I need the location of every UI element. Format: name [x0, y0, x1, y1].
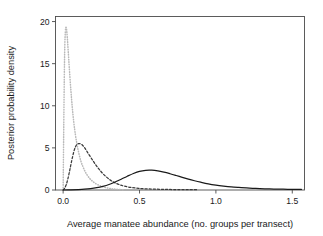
- figure-background: [0, 0, 323, 236]
- x-tick-label: 0.0: [57, 196, 69, 206]
- posterior-density-chart: 0.00.51.01.5 05101520 Average manatee ab…: [0, 0, 323, 236]
- y-tick-label: 5: [45, 143, 50, 153]
- y-tick-label: 15: [40, 59, 50, 69]
- figure-container: 0.00.51.01.5 05101520 Average manatee ab…: [0, 0, 323, 236]
- y-tick-label: 20: [40, 17, 50, 27]
- y-axis-label: Posterior probability density: [6, 46, 16, 161]
- x-axis-label: Average manatee abundance (no. groups pe…: [67, 219, 293, 229]
- x-tick-label: 1.5: [286, 196, 298, 206]
- x-tick-label: 1.0: [210, 196, 222, 206]
- x-tick-label: 0.5: [134, 196, 146, 206]
- y-tick-label: 10: [40, 101, 50, 111]
- y-tick-label: 0: [45, 185, 50, 195]
